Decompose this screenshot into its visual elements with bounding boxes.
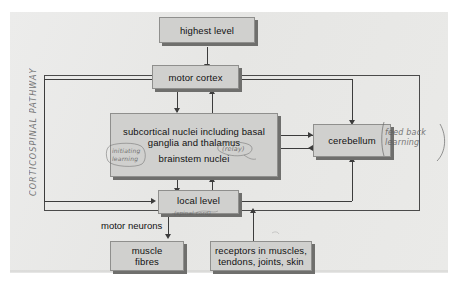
box-cerebellum[interactable]: cerebellum	[313, 124, 391, 157]
box-subcortical-line1: subcortical nuclei including basal	[120, 126, 268, 137]
annotation-relay: (relay)	[222, 145, 245, 153]
box-highest-level-label: highest level	[177, 25, 237, 36]
box-motor-cortex[interactable]: motor cortex	[152, 65, 239, 89]
box-muscle-line1: muscle	[129, 245, 166, 256]
box-motor-cortex-label: motor cortex	[166, 72, 226, 83]
connector-cortex-right-segment	[239, 79, 352, 80]
box-muscle-line2: fibres	[132, 256, 162, 267]
connector-pathway-down	[44, 79, 45, 201]
annotation-feedback-learning: feed back learning	[385, 128, 426, 148]
figure-scan: highest level motor cortex subcortical n…	[0, 0, 458, 298]
arrowhead-local-to-cerebellum	[349, 157, 355, 162]
box-highest-level[interactable]: highest level	[159, 17, 255, 43]
annotation-corticospinal-pathway: CORTICOSPINAL PATHWAY	[30, 68, 38, 196]
connector-subcortical-to-cortex	[212, 91, 213, 113]
connector-pathway-to-local	[44, 201, 152, 202]
arrowhead-local-to-muscle	[165, 234, 171, 239]
arrowhead-pathway-to-local	[151, 198, 156, 204]
arrowhead-receptors-to-local	[250, 208, 256, 213]
box-receptors[interactable]: receptors in muscles, tendons, joints, s…	[210, 241, 312, 271]
arrowhead-local-to-subcortical	[209, 177, 215, 182]
box-cerebellum-label: cerebellum	[325, 135, 378, 146]
box-receptors-line1: receptors in muscles,	[212, 245, 310, 256]
connector-receptors-to-local	[253, 211, 254, 242]
label-motor-neurons: motor neurons	[101, 220, 162, 231]
connector-local-up-to-cerebellum	[352, 162, 353, 201]
box-local-level-label: local level	[174, 195, 223, 206]
annotation-initiating-learning: initiating learning	[112, 147, 140, 162]
arrowhead-subcortical-to-cortex	[209, 89, 215, 94]
connector-cortex-down-to-cerebellum	[352, 79, 353, 123]
box-receptors-line2: tendons, joints, skin	[215, 256, 307, 267]
box-subcortical-line3: brainstem nuclei	[156, 153, 233, 164]
connector-local-right-segment	[239, 201, 352, 202]
annotation-spinal-cord: (spinal cord)	[174, 209, 211, 217]
box-muscle-fibres[interactable]: muscle fibres	[110, 241, 184, 271]
connector-cortex-left-segment	[44, 79, 152, 80]
box-subcortical-nuclei[interactable]: subcortical nuclei including basal gangl…	[110, 113, 278, 177]
